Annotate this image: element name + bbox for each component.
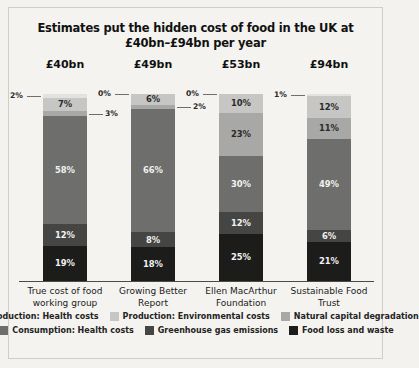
segment-value-label: 23% <box>231 130 251 138</box>
bar-segment[interactable]: 7% <box>43 98 87 111</box>
bar-column: £40bn2%7%3%58%12%19%True cost of food wo… <box>21 58 109 290</box>
x-axis-category-label: True cost of food working group <box>21 286 109 309</box>
column-total-label: £40bn <box>21 58 109 71</box>
x-axis-category-label: Growing Better Report <box>109 286 197 309</box>
chart-title: Estimates put the hidden cost of food in… <box>9 8 382 50</box>
segment-value-label: 12% <box>319 103 339 111</box>
x-axis-category-label: Sustainable Food Trust <box>285 286 373 309</box>
bar-segment[interactable]: 30% <box>219 156 263 212</box>
segment-value-label: 6% <box>146 95 160 103</box>
legend-label: Production: Environmental costs <box>123 312 270 321</box>
legend-label: Production: Health costs <box>0 312 99 321</box>
bar-segment[interactable]: 21% <box>307 242 351 281</box>
bar-segment[interactable]: 12% <box>219 212 263 234</box>
callout-leader-line <box>89 114 103 115</box>
chart-legend: Production: Health costsProduction: Envi… <box>9 312 384 340</box>
bar-column: £53bn0%10%23%30%12%25%Ellen MacArthur Fo… <box>197 58 285 290</box>
bar-segment[interactable]: 58% <box>43 116 87 223</box>
stacked-bar[interactable]: 0%6%2%66%8%18% <box>131 94 175 281</box>
segment-value-label: 6% <box>322 232 336 240</box>
callout-value-label: 0% <box>98 89 111 98</box>
x-axis-category-label: Ellen MacArthur Foundation <box>197 286 285 309</box>
stacked-bar-plot: £40bn2%7%3%58%12%19%True cost of food wo… <box>9 58 384 290</box>
bar-segment[interactable]: 23% <box>219 113 263 156</box>
legend-label: Natural capital degradation <box>294 312 419 321</box>
callout-leader-line <box>177 107 191 108</box>
bar-segment[interactable]: 25% <box>219 234 263 281</box>
callout-value-label: 1% <box>274 90 287 99</box>
callout-value-label: 2% <box>10 91 23 100</box>
segment-value-label: 12% <box>231 219 251 227</box>
legend-label: Food loss and waste <box>302 326 394 335</box>
chart-frame: Estimates put the hidden cost of food in… <box>8 7 383 359</box>
callout-value-label: 3% <box>105 109 118 118</box>
bar-segment[interactable]: 11% <box>307 118 351 139</box>
callout-value-label: 2% <box>193 102 206 111</box>
bar-segment[interactable]: 8% <box>131 232 175 247</box>
legend-row-bottom: Consumption: Health costsGreenhouse gas … <box>9 326 384 335</box>
legend-item[interactable]: Natural capital degradation <box>281 312 419 321</box>
segment-value-label: 21% <box>319 257 339 265</box>
segment-value-label: 12% <box>55 231 75 239</box>
bar-segment[interactable]: 49% <box>307 139 351 231</box>
callout-leader-line <box>291 95 305 96</box>
legend-swatch <box>0 326 8 335</box>
stacked-bar[interactable]: 0%10%23%30%12%25% <box>219 94 263 281</box>
bar-segment[interactable]: 19% <box>43 246 87 281</box>
segment-value-label: 19% <box>55 259 75 267</box>
legend-swatch <box>289 326 298 335</box>
bar-column: £94bn1%12%11%49%6%21%Sustainable Food Tr… <box>285 58 373 290</box>
legend-item[interactable]: Production: Environmental costs <box>110 312 270 321</box>
callout-value-label: 0% <box>186 89 199 98</box>
segment-value-label: 49% <box>319 180 339 188</box>
bar-segment[interactable]: 6% <box>307 230 351 241</box>
legend-item[interactable]: Greenhouse gas emissions <box>145 326 278 335</box>
legend-item[interactable]: Food loss and waste <box>289 326 394 335</box>
callout-leader-line <box>27 96 41 97</box>
segment-value-label: 66% <box>143 166 163 174</box>
bar-segment[interactable]: 10% <box>219 94 263 113</box>
legend-item[interactable]: Consumption: Health costs <box>0 326 134 335</box>
segment-value-label: 58% <box>55 166 75 174</box>
bar-segment[interactable]: 18% <box>131 247 175 281</box>
segment-value-label: 11% <box>319 124 339 132</box>
bar-segment[interactable]: 12% <box>43 224 87 246</box>
legend-swatch <box>110 312 119 321</box>
legend-item[interactable]: Production: Health costs <box>0 312 99 321</box>
segment-value-label: 7% <box>58 100 72 108</box>
column-total-label: £94bn <box>285 58 373 71</box>
bar-segment[interactable]: 66% <box>131 109 175 232</box>
bar-segment[interactable]: 6% <box>131 94 175 105</box>
segment-value-label: 30% <box>231 180 251 188</box>
column-total-label: £53bn <box>197 58 285 71</box>
stacked-bar[interactable]: 1%12%11%49%6%21% <box>307 94 351 281</box>
bar-column: £49bn0%6%2%66%8%18%Growing Better Report <box>109 58 197 290</box>
legend-swatch <box>145 326 154 335</box>
segment-value-label: 10% <box>231 99 251 107</box>
callout-leader-line <box>203 94 217 95</box>
legend-label: Greenhouse gas emissions <box>158 326 278 335</box>
column-total-label: £49bn <box>109 58 197 71</box>
segment-value-label: 25% <box>231 253 251 261</box>
legend-swatch <box>281 312 290 321</box>
segment-value-label: 18% <box>143 260 163 268</box>
legend-row-top: Production: Health costsProduction: Envi… <box>9 312 384 321</box>
callout-leader-line <box>115 94 129 95</box>
segment-value-label: 8% <box>146 236 160 244</box>
bar-segment[interactable]: 12% <box>307 96 351 118</box>
stacked-bar[interactable]: 2%7%3%58%12%19% <box>43 94 87 281</box>
legend-label: Consumption: Health costs <box>12 326 133 335</box>
